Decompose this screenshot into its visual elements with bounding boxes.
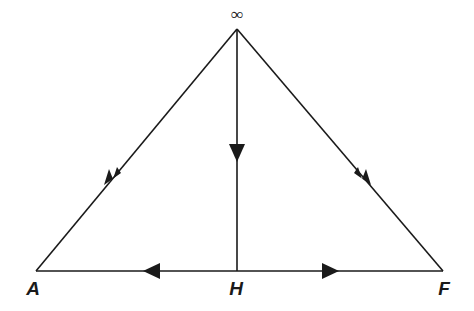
vertex-label-h: H (229, 278, 244, 299)
left-edge-arrow-icon (104, 167, 121, 185)
left-edge-line (36, 29, 237, 271)
geometry-diagram-canvas: ∞ A H F (0, 0, 474, 311)
triangle-diagram: ∞ A H F (0, 0, 474, 311)
vertex-label-f: F (438, 278, 451, 299)
altitude-arrow-icon (229, 144, 245, 162)
apex-infinity-label: ∞ (231, 5, 243, 24)
vertex-label-a: A (25, 278, 40, 299)
right-edge-line (237, 29, 443, 271)
base-right-arrow-icon (322, 263, 339, 279)
base-left-arrow-icon (143, 263, 160, 279)
